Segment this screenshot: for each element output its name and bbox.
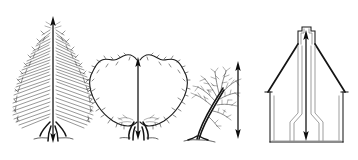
bare-tree-height-arrow xyxy=(235,61,240,139)
conifer-right-foliage xyxy=(56,30,93,128)
bare-tree-trunk xyxy=(197,88,224,139)
illustration-canvas xyxy=(0,0,358,160)
figure-svg xyxy=(0,0,358,160)
conifer-height-arrow xyxy=(50,16,55,143)
conifer-tree xyxy=(13,16,93,143)
house-building xyxy=(265,27,348,142)
deciduous-height-arrow xyxy=(135,57,140,140)
house-height-arrow xyxy=(303,30,308,141)
bare-leaning-tree xyxy=(184,61,241,142)
deciduous-ground-line xyxy=(120,138,158,139)
deciduous-tree xyxy=(87,53,190,140)
bare-tree-ground-line xyxy=(184,140,215,142)
conifer-left-foliage xyxy=(13,30,50,128)
